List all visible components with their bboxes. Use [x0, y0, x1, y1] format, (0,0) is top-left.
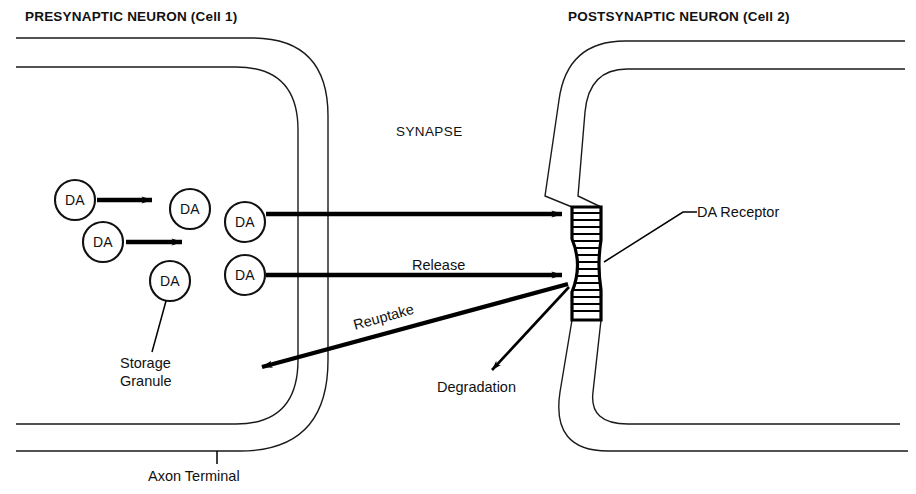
da-granule[interactable]: DA — [225, 255, 265, 295]
da-receptor-label: DA Receptor — [697, 204, 779, 220]
da-granule[interactable]: DA — [225, 202, 265, 242]
presynaptic-neuron-title: PRESYNAPTIC NEURON (Cell 1) — [25, 9, 237, 24]
degradation-label: Degradation — [437, 379, 516, 395]
axon-terminal-label: Axon Terminal — [148, 468, 240, 484]
storage-granule-label-line1: Storage — [120, 355, 171, 371]
da-granule-label: DA — [235, 267, 255, 283]
synapse-label: SYNAPSE — [396, 124, 463, 139]
da-granule-label: DA — [93, 234, 113, 250]
storage-granule-label-line2: Granule — [120, 373, 172, 389]
da-granule-storage[interactable]: DA — [150, 261, 190, 301]
release-label: Release — [412, 257, 465, 273]
da-granule-label: DA — [65, 192, 85, 208]
da-granule-label: DA — [235, 214, 255, 230]
da-granule[interactable]: DA — [170, 189, 210, 229]
da-granule[interactable]: DA — [55, 180, 95, 220]
postsynaptic-neuron-title: POSTSYNAPTIC NEURON (Cell 2) — [568, 9, 790, 24]
synapse-diagram: DA DA DA DA DA DA — [0, 0, 916, 494]
diagram-background — [0, 0, 916, 494]
da-granule-label: DA — [160, 273, 180, 289]
da-granule-label: DA — [180, 201, 200, 217]
da-granule[interactable]: DA — [83, 222, 123, 262]
